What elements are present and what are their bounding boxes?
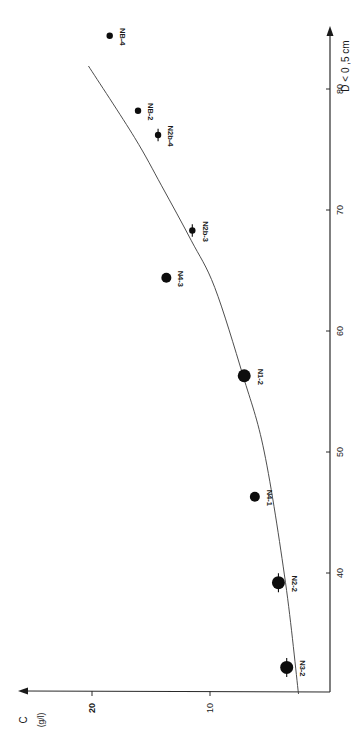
data-point: N2b-3	[189, 221, 209, 242]
point-marker	[250, 492, 260, 502]
point-label: N2b-4	[166, 126, 175, 148]
point-marker	[155, 132, 161, 138]
point-marker	[238, 369, 251, 382]
point-label: NB-2	[146, 103, 155, 121]
data-point: NB-4	[107, 28, 127, 46]
y-tick-label: 10	[205, 703, 215, 713]
y-axis-title: C	[18, 716, 29, 723]
y-tick-label: 20	[87, 703, 97, 713]
fitted-curve-line	[88, 66, 298, 694]
x-tick-label: 40	[335, 568, 345, 578]
point-marker	[280, 661, 293, 674]
point-label: N4-1	[265, 490, 274, 506]
fitted-curve	[88, 66, 298, 694]
point-label: N1-2	[256, 369, 265, 385]
point-label: N2b-3	[201, 221, 210, 242]
x-tick-label: 60	[335, 326, 345, 336]
point-label: N4-3	[176, 271, 185, 287]
x-tick-label: 50	[335, 447, 345, 457]
x-axis-arrow-icon	[327, 26, 334, 36]
y-axis-arrow-icon	[18, 688, 28, 695]
point-marker	[189, 227, 195, 233]
x-axis-ticks: 4050607080	[326, 84, 345, 578]
data-points: N3-2N2-2N4-1N1-2N4-3N2b-3N2b-4NB-2NB-4	[107, 28, 308, 677]
point-marker	[272, 576, 285, 589]
data-point: N4-3	[161, 271, 185, 287]
data-point: N3-2	[280, 658, 307, 677]
data-point: N2b-4	[155, 126, 175, 148]
data-point: NB-2	[135, 103, 155, 121]
y-axis-ticks: 1020	[87, 691, 215, 713]
x-tick-label: 80	[335, 84, 345, 94]
data-point: N4-1	[250, 490, 274, 506]
data-point: N1-2	[238, 369, 265, 385]
point-marker	[161, 273, 171, 283]
y-axis-line	[24, 691, 330, 692]
point-label: N2-2	[290, 576, 299, 592]
point-marker	[107, 33, 113, 39]
point-label: N3-2	[298, 660, 307, 676]
chart-canvas: D < 0 ,5 cm C (g/l) 4050607080 1020 N3-2…	[0, 0, 360, 756]
y-axis-unit: (g/l)	[36, 713, 46, 728]
point-label: NB-4	[118, 28, 127, 46]
point-marker	[135, 108, 141, 114]
x-tick-label: 70	[335, 205, 345, 215]
